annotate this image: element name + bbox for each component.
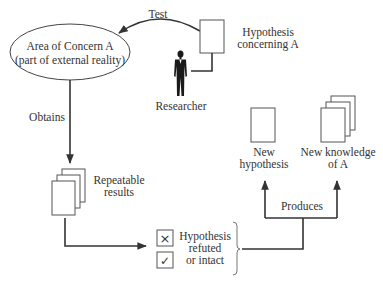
area-of-concern-subtitle: (part of external reality) <box>15 54 125 67</box>
hypothesis-label-line2: concerning A <box>237 38 299 51</box>
new-knowledge-line2: of A <box>328 158 349 170</box>
new-hypothesis-line1: New <box>253 146 275 158</box>
new-hypothesis-line2: hypothesis <box>239 158 289 171</box>
repeatable-results-node: Repeatable results <box>52 169 145 215</box>
brace-icon <box>233 222 240 275</box>
hypothesis-node: Hypothesis concerning A <box>200 20 300 53</box>
intact-checkbox: ✓ <box>157 252 173 268</box>
outcome-label-line3: or intact <box>186 254 225 266</box>
document-icon <box>251 108 275 142</box>
outcome-label-line2: refuted <box>189 242 222 254</box>
check-mark-icon: ✓ <box>160 254 170 268</box>
obtains-label: Obtains <box>29 111 65 123</box>
new-knowledge-node: New knowledge of A <box>300 96 375 170</box>
document-stack-icon <box>52 169 85 215</box>
researcher-node: Researcher <box>155 50 206 112</box>
produces-label: Produces <box>281 200 324 212</box>
test-edge: Test <box>119 8 200 33</box>
test-label: Test <box>149 8 169 20</box>
new-hypothesis-node: New hypothesis <box>239 108 289 171</box>
results-to-outcome-edge <box>65 218 146 246</box>
x-mark-icon: × <box>160 231 171 246</box>
refuted-checkbox: × <box>157 230 173 246</box>
research-process-diagram: Area of Concern A (part of external real… <box>0 0 383 290</box>
person-icon <box>174 50 187 96</box>
outcome-node: × ✓ Hypothesis refuted or intact <box>157 222 240 275</box>
area-of-concern-node: Area of Concern A (part of external real… <box>10 24 130 80</box>
repeatable-results-line2: results <box>104 186 135 198</box>
researcher-hypothesis-connector <box>191 53 212 71</box>
obtains-edge: Obtains <box>29 80 70 163</box>
area-of-concern-title: Area of Concern A <box>26 40 114 52</box>
document-stack-icon <box>321 96 355 142</box>
researcher-label: Researcher <box>155 100 206 112</box>
hypothesis-document-icon <box>200 20 224 53</box>
produces-edge: Produces <box>242 181 337 249</box>
